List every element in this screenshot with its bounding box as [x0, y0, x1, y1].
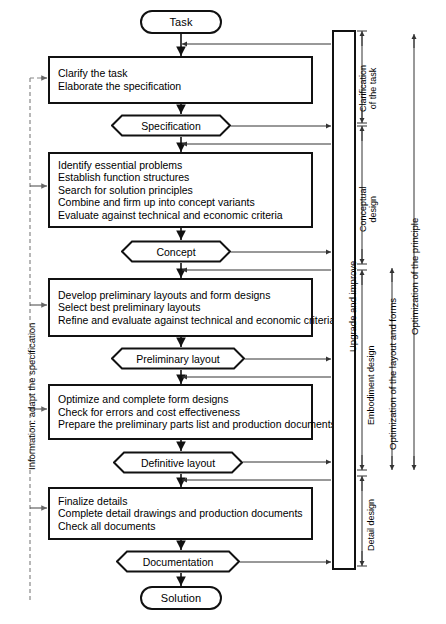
left-annotation-label: Information: adapt the specification	[26, 323, 37, 470]
phase-label-line2: of the task	[368, 65, 378, 112]
design-process-flowchart: Task Clarify the task Elaborate the spec…	[0, 0, 446, 624]
process-step: Finalize details	[58, 495, 311, 508]
phase-label-clarification: Clarification of the task	[358, 65, 378, 112]
process-step: Select best preliminary layouts	[58, 301, 311, 314]
end-node-label: Solution	[161, 592, 202, 604]
phase-label-line2: design	[368, 186, 378, 232]
feedback-bar-label: Upgrade and improve	[348, 261, 359, 352]
result-node-label: Documentation	[143, 556, 214, 568]
result-node-label: Concept	[156, 246, 195, 258]
process-step: Establish function structures	[58, 171, 311, 184]
result-node-specification[interactable]: Specification	[111, 114, 231, 137]
process-step: Elaborate the specification	[58, 80, 311, 93]
result-node-preliminary-layout[interactable]: Preliminary layout	[111, 347, 245, 370]
process-box-detail[interactable]: Finalize details Complete detail drawing…	[48, 487, 313, 540]
process-step: Check for errors and cost effectiveness	[58, 406, 311, 419]
optimization-label-principle: Optimization of the principle	[410, 218, 421, 335]
result-node-concept[interactable]: Concept	[121, 240, 231, 263]
process-step: Check all documents	[58, 520, 311, 533]
result-node-documentation[interactable]: Documentation	[116, 550, 240, 573]
phase-label-embodiment-design: Embodiment design	[366, 345, 376, 425]
process-step: Clarify the task	[58, 67, 311, 80]
process-step: Refine and evaluate against technical an…	[58, 314, 311, 327]
process-box-clarify[interactable]: Clarify the task Elaborate the specifica…	[48, 56, 313, 104]
phase-label-line1: Embodiment design	[366, 345, 376, 425]
process-step: Develop preliminary layouts and form des…	[58, 289, 311, 302]
process-step: Complete detail drawings and production …	[58, 507, 311, 520]
process-step: Identify essential problems	[58, 159, 311, 172]
phase-label-detail-design: Detail design	[366, 499, 376, 551]
optimization-label-layout-and-forms: Optimization of the layout and forms	[388, 298, 399, 450]
phase-label-line1: Detail design	[366, 499, 376, 551]
process-step: Optimize and complete form designs	[58, 393, 311, 406]
process-step: Evaluate against technical and economic …	[58, 209, 311, 222]
result-node-label: Specification	[141, 120, 201, 132]
end-node-solution[interactable]: Solution	[140, 586, 222, 610]
process-step: Combine and firm up into concept variant…	[58, 196, 311, 209]
process-box-conceptual[interactable]: Identify essential problems Establish fu…	[48, 152, 313, 228]
phase-label-line1: Conceptual	[358, 186, 368, 232]
process-box-definitive[interactable]: Optimize and complete form designs Check…	[48, 384, 313, 440]
result-node-label: Definitive layout	[141, 457, 215, 469]
phase-label-conceptual-design: Conceptual design	[358, 186, 378, 232]
process-step: Prepare the preliminary parts list and p…	[58, 418, 311, 431]
result-node-label: Preliminary layout	[136, 353, 219, 365]
start-node-label: Task	[169, 16, 192, 28]
process-step: Search for solution principles	[58, 184, 311, 197]
start-node-task[interactable]: Task	[140, 10, 222, 34]
process-box-preliminary[interactable]: Develop preliminary layouts and form des…	[48, 278, 313, 337]
result-node-definitive-layout[interactable]: Definitive layout	[113, 451, 243, 474]
phase-label-line1: Clarification	[358, 65, 368, 112]
